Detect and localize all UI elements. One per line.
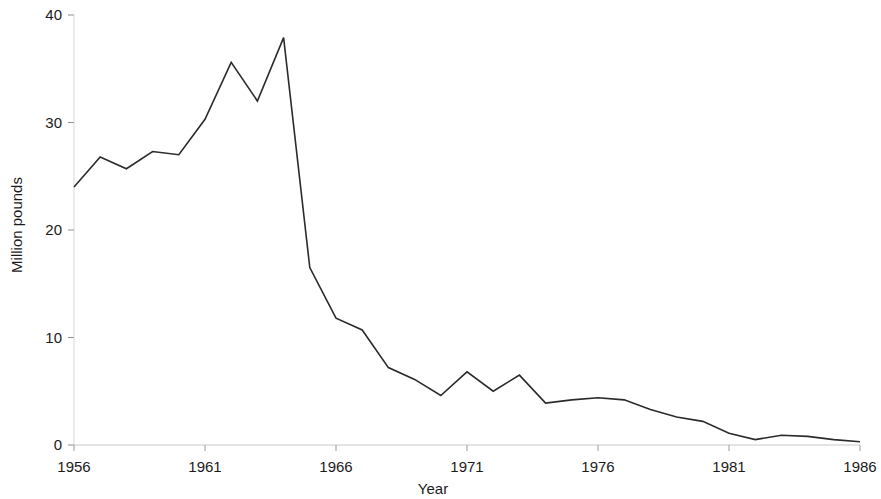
x-tick-label: 1961 [175,459,235,474]
x-tick-label: 1966 [306,459,366,474]
y-tick-label: 10 [0,330,62,345]
axis-ticks-group [68,15,860,451]
axis-lines-group [74,15,860,445]
x-axis-title: Year [0,481,866,496]
x-tick-label: 1956 [44,459,104,474]
x-tick-label: 1976 [568,459,628,474]
y-tick-label: 20 [0,222,62,237]
data-series-line [74,38,860,442]
x-tick-label: 1986 [830,459,881,474]
x-tick-label: 1981 [699,459,759,474]
y-tick-label: 40 [0,7,62,22]
y-tick-label: 0 [0,437,62,452]
x-tick-label: 1971 [437,459,497,474]
y-tick-label: 30 [0,115,62,130]
